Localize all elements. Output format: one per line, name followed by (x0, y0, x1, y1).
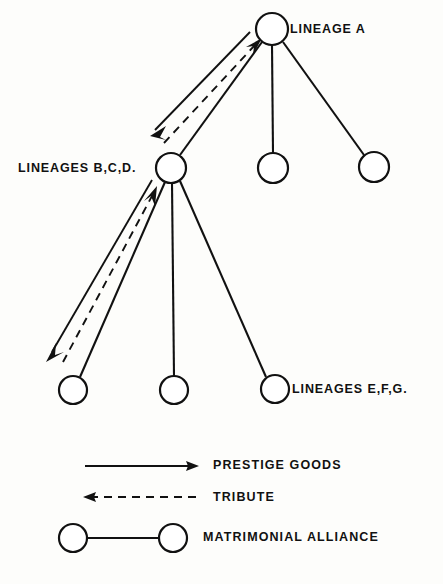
prestige-arrowhead-bcd-to-efg (46, 343, 64, 362)
node-bcd-child-left[interactable] (59, 376, 87, 404)
legend-label-tribute: TRIBUTE (213, 491, 275, 504)
node-lineages-bcd[interactable] (156, 153, 186, 183)
prestige-arrow-a-to-bcd (155, 32, 250, 130)
legend-swatch-alliance-circle-left (59, 524, 87, 552)
node-lineages-efg[interactable] (261, 375, 289, 403)
diagram-canvas: LINEAGE A LINEAGES B,C,D. LINEAGES E,F,G… (0, 0, 443, 584)
alliance-edges (80, 42, 364, 377)
node-bcd-child-middle[interactable] (160, 376, 188, 404)
alliance-edge-a-child3 (283, 42, 364, 155)
legend-swatches (59, 461, 199, 552)
diagram-nodes (59, 13, 389, 404)
label-lineage-a: LINEAGE A (290, 23, 366, 36)
alliance-edge-bcd-g (180, 181, 266, 377)
alliance-edge-a-child2 (272, 45, 273, 153)
tribute-arrows (63, 38, 262, 362)
node-lineage-a[interactable] (256, 13, 288, 45)
tribute-arrow-efg-to-bcd (63, 196, 152, 362)
label-lineages-efg: LINEAGES E,F,G. (292, 383, 408, 396)
legend-label-matrimonial-alliance: MATRIMONIAL ALLIANCE (203, 531, 379, 544)
node-a-child-middle[interactable] (258, 153, 288, 183)
alliance-edge-a-bcd (180, 42, 262, 155)
legend-swatch-alliance-circle-right (159, 524, 187, 552)
label-lineages-bcd: LINEAGES B,C,D. (18, 162, 136, 175)
alliance-edge-bcd-e (80, 182, 165, 377)
alliance-edge-bcd-f (172, 183, 174, 376)
tribute-arrow-bcd-to-a (164, 45, 255, 143)
legend-label-prestige-goods: PRESTIGE GOODS (213, 459, 342, 472)
node-a-child-right[interactable] (359, 152, 389, 182)
